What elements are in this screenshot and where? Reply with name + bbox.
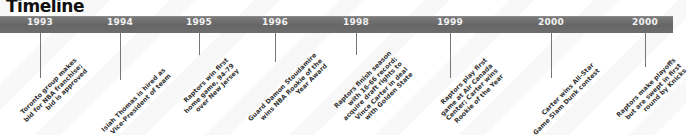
year-label: 1999 xyxy=(437,17,463,27)
tick-line xyxy=(645,32,646,67)
tick-line xyxy=(199,32,200,55)
year-label: 2000 xyxy=(538,17,564,27)
timeline-bar xyxy=(0,16,673,33)
tick-line xyxy=(120,32,121,80)
event-label: Raptors make playoffsbut are swept in fi… xyxy=(615,57,688,130)
year-label: 2000 xyxy=(632,17,658,27)
event-label: Raptors win firsthome game, 94-79over Ne… xyxy=(178,57,242,121)
timeline-title: Timeline xyxy=(6,0,84,16)
event-label: Carter wins All-StarGame Slam Dunk conte… xyxy=(527,62,602,137)
event-label: Raptors finish seasonwith 16-66 record;a… xyxy=(331,50,415,134)
event-label: Guard Damon Stoudamirewins NBA Rookie of… xyxy=(247,52,329,134)
event-label: Raptors play firstgame at Air CanadaCent… xyxy=(434,57,506,129)
year-label: 1996 xyxy=(262,17,288,27)
year-label: 1998 xyxy=(343,17,369,27)
tick-line xyxy=(551,32,552,78)
event-label: Toronto group makesbid for NBA franchise… xyxy=(18,57,90,129)
tick-line xyxy=(275,32,276,62)
tick-line xyxy=(40,32,41,78)
tick-line xyxy=(450,32,451,78)
year-label: 1994 xyxy=(107,17,133,27)
event-label: Isiah Thomas is hired asVice-President o… xyxy=(100,67,172,139)
year-label: 1995 xyxy=(186,17,212,27)
year-label: 1993 xyxy=(27,17,53,27)
tick-line xyxy=(356,32,357,55)
